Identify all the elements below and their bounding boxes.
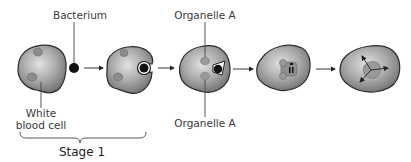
bacterium-icon	[140, 64, 149, 73]
cell-step-4	[257, 45, 310, 90]
label-bacterium: Bacterium	[53, 9, 107, 21]
phagocytosis-diagram: White blood cell Bacterium Organelle A O…	[0, 0, 411, 162]
bacterium-icon	[214, 65, 223, 74]
organelle-a-icon	[201, 72, 210, 80]
organelle-icon	[27, 73, 37, 81]
organelle-icon	[114, 73, 123, 81]
label-organelle-a-top: Organelle A	[174, 9, 236, 21]
label-blood-cell: blood cell	[16, 119, 67, 131]
label-organelle-a-bottom: Organelle A	[174, 117, 236, 129]
organelle-icon	[120, 50, 128, 57]
stage-bracket	[20, 132, 146, 143]
cell-step-5	[340, 46, 400, 92]
label-stage-1: Stage 1	[59, 145, 105, 159]
organelle-a-icon	[201, 57, 210, 65]
organelle-icon	[34, 48, 43, 56]
cell-step-2	[107, 47, 153, 94]
label-white: White	[26, 107, 57, 119]
cell-step-1	[18, 45, 66, 93]
bacterium-icon	[69, 63, 79, 73]
